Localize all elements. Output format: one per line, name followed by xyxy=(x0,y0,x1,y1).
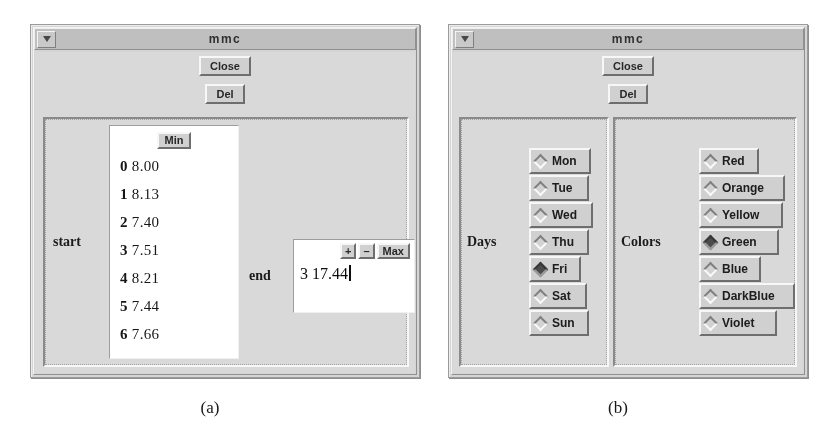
close-button-a[interactable]: Close xyxy=(199,56,251,76)
radio-diamond-icon xyxy=(533,234,549,250)
table-row[interactable]: 6 7.66 xyxy=(120,320,238,348)
window-menu-button-a[interactable] xyxy=(37,31,56,48)
row-index: 1 xyxy=(120,186,128,202)
radio-green[interactable]: Green xyxy=(699,229,779,255)
radio-label: Orange xyxy=(722,181,764,195)
row-value: 7.44 xyxy=(128,298,160,314)
radio-blue[interactable]: Blue xyxy=(699,256,761,282)
text-cursor xyxy=(349,265,351,281)
end-group: end + – Max 3 17.44 xyxy=(245,237,415,315)
figure-canvas: mmc Close Del start Min 0 8.001 8.132 7.… xyxy=(0,0,834,440)
caption-a: (a) xyxy=(180,398,240,418)
radio-label: Mon xyxy=(552,154,577,168)
decrement-button[interactable]: – xyxy=(358,243,374,259)
row-value: 8.00 xyxy=(128,158,160,174)
radio-label: Sun xyxy=(552,316,575,330)
radio-sat[interactable]: Sat xyxy=(529,283,587,309)
radio-wed[interactable]: Wed xyxy=(529,202,593,228)
table-row[interactable]: 4 8.21 xyxy=(120,264,238,292)
radio-selected-diamond-icon xyxy=(703,234,719,250)
radio-fri[interactable]: Fri xyxy=(529,256,581,282)
delete-button-b[interactable]: Del xyxy=(608,84,647,104)
days-group: Days MonTueWedThuFriSatSun xyxy=(461,119,607,365)
radio-violet[interactable]: Violet xyxy=(699,310,777,336)
end-value-text: 3 17.44 xyxy=(300,265,348,283)
window-title-b: mmc xyxy=(474,32,782,46)
colors-frame: Colors RedOrangeYellowGreenBlueDarkBlueV… xyxy=(613,117,797,367)
titlebar-b: mmc xyxy=(452,28,804,50)
start-group: start Min 0 8.001 8.132 7.403 7.514 8.21… xyxy=(49,123,239,361)
table-row[interactable]: 5 7.44 xyxy=(120,292,238,320)
row-value: 7.40 xyxy=(128,214,160,230)
radio-diamond-icon xyxy=(703,315,719,331)
radio-orange[interactable]: Orange xyxy=(699,175,785,201)
radio-diamond-icon xyxy=(703,180,719,196)
min-button[interactable]: Min xyxy=(157,132,192,149)
start-list-header: Min xyxy=(110,126,238,152)
radio-diamond-icon xyxy=(533,153,549,169)
radio-diamond-icon xyxy=(703,153,719,169)
row-index: 0 xyxy=(120,158,128,174)
radio-label: Yellow xyxy=(722,208,759,222)
radio-label: Green xyxy=(722,235,757,249)
main-frame-a: start Min 0 8.001 8.132 7.403 7.514 8.21… xyxy=(43,117,409,367)
window-menu-button-b[interactable] xyxy=(455,31,474,48)
radio-label: Thu xyxy=(552,235,574,249)
radio-sun[interactable]: Sun xyxy=(529,310,589,336)
end-tool-buttons: + – Max xyxy=(294,240,414,261)
end-group-label: end xyxy=(245,268,293,284)
end-entry-box[interactable]: + – Max 3 17.44 xyxy=(293,239,415,313)
radio-diamond-icon xyxy=(533,315,549,331)
days-frame: Days MonTueWedThuFriSatSun xyxy=(459,117,609,367)
radio-darkblue[interactable]: DarkBlue xyxy=(699,283,795,309)
radio-label: Red xyxy=(722,154,745,168)
radio-label: Fri xyxy=(552,262,567,276)
max-button[interactable]: Max xyxy=(377,243,410,259)
radio-tue[interactable]: Tue xyxy=(529,175,589,201)
start-list-rows: 0 8.001 8.132 7.403 7.514 8.215 7.446 7.… xyxy=(110,152,238,348)
radio-mon[interactable]: Mon xyxy=(529,148,591,174)
radio-label: DarkBlue xyxy=(722,289,775,303)
radio-label: Blue xyxy=(722,262,748,276)
start-group-label: start xyxy=(49,234,109,250)
radio-thu[interactable]: Thu xyxy=(529,229,589,255)
toolbar-b: Close Del xyxy=(453,56,803,104)
radio-diamond-icon xyxy=(703,207,719,223)
radio-red[interactable]: Red xyxy=(699,148,759,174)
radio-selected-diamond-icon xyxy=(533,261,549,277)
window-mmc-b: mmc Close Del Days MonTueWedThuFriSatSun… xyxy=(448,24,808,378)
window-title-a: mmc xyxy=(56,32,394,46)
table-row[interactable]: 2 7.40 xyxy=(120,208,238,236)
increment-button[interactable]: + xyxy=(340,243,356,259)
radio-label: Violet xyxy=(722,316,754,330)
radio-diamond-icon xyxy=(703,288,719,304)
table-row[interactable]: 3 7.51 xyxy=(120,236,238,264)
colors-radio-list: RedOrangeYellowGreenBlueDarkBlueViolet xyxy=(699,148,795,336)
radio-diamond-icon xyxy=(533,207,549,223)
row-index: 2 xyxy=(120,214,128,230)
caption-b: (b) xyxy=(588,398,648,418)
colors-group: Colors RedOrangeYellowGreenBlueDarkBlueV… xyxy=(615,119,795,365)
window-client-area-a: Close Del start Min 0 8.001 8.132 7.403 … xyxy=(35,52,415,373)
row-value: 8.13 xyxy=(128,186,160,202)
end-value-field[interactable]: 3 17.44 xyxy=(294,261,414,287)
table-row[interactable]: 1 8.13 xyxy=(120,180,238,208)
radio-yellow[interactable]: Yellow xyxy=(699,202,783,228)
days-radio-list: MonTueWedThuFriSatSun xyxy=(529,148,593,336)
delete-button-a[interactable]: Del xyxy=(205,84,244,104)
radio-diamond-icon xyxy=(533,288,549,304)
radio-label: Wed xyxy=(552,208,577,222)
row-value: 7.66 xyxy=(128,326,160,342)
titlebar-a: mmc xyxy=(34,28,416,50)
start-listbox[interactable]: Min 0 8.001 8.132 7.403 7.514 8.215 7.44… xyxy=(109,125,239,359)
radio-label: Tue xyxy=(552,181,572,195)
colors-group-label: Colors xyxy=(615,234,699,250)
radio-diamond-icon xyxy=(533,180,549,196)
row-index: 6 xyxy=(120,326,128,342)
toolbar-a: Close Del xyxy=(35,56,415,104)
close-button-b[interactable]: Close xyxy=(602,56,654,76)
row-value: 8.21 xyxy=(128,270,160,286)
window-menu-triangle-icon xyxy=(43,36,51,42)
row-index: 3 xyxy=(120,242,128,258)
table-row[interactable]: 0 8.00 xyxy=(120,152,238,180)
